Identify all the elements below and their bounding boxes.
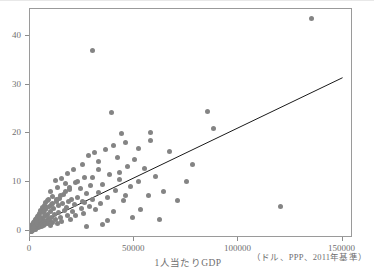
data-point	[81, 211, 86, 216]
x-axis-unit-note: （ドル、PPP、2011年基準）	[252, 252, 374, 262]
data-point	[105, 195, 110, 200]
data-point	[205, 109, 210, 114]
y-tick-label: 0	[0, 226, 21, 235]
data-point	[103, 147, 108, 152]
x-tick-mark	[133, 237, 134, 241]
data-point	[53, 178, 58, 183]
data-point	[278, 204, 283, 209]
x-tick-mark	[342, 237, 343, 241]
data-point	[107, 172, 112, 177]
data-point	[59, 176, 64, 181]
data-point	[86, 153, 91, 158]
y-tick-label: 30	[0, 80, 21, 89]
data-point	[87, 204, 92, 209]
x-tick-mark	[237, 237, 238, 241]
data-point	[78, 186, 83, 191]
data-point	[80, 162, 85, 167]
data-point	[132, 157, 137, 162]
y-tick-label: 40	[0, 31, 21, 40]
data-point	[130, 215, 135, 220]
data-point	[63, 189, 68, 194]
data-point	[111, 209, 116, 214]
data-point	[84, 224, 89, 229]
y-tick-label: 10	[0, 177, 21, 186]
plot-area	[29, 8, 352, 237]
data-point	[128, 184, 133, 189]
data-point	[84, 191, 89, 196]
x-tick-mark	[29, 237, 30, 241]
data-point	[90, 175, 95, 180]
data-point	[44, 205, 49, 210]
x-tick-label: 0	[0, 244, 59, 253]
data-point	[117, 170, 122, 175]
data-point	[115, 155, 120, 160]
data-point	[34, 219, 39, 224]
data-point	[55, 185, 60, 190]
regression-line	[30, 9, 352, 237]
data-point	[79, 206, 84, 211]
data-point	[119, 131, 124, 136]
x-axis-title: 1人当たりGDP	[128, 258, 248, 269]
data-point	[80, 199, 85, 204]
data-point	[123, 193, 128, 198]
data-point	[153, 174, 158, 179]
y-tick-label: 20	[0, 128, 21, 137]
data-point	[90, 48, 95, 53]
data-point	[62, 208, 67, 213]
data-point	[56, 203, 61, 208]
data-point	[142, 166, 147, 171]
data-point	[65, 171, 70, 176]
data-point	[68, 217, 73, 222]
top-clipped-rule	[0, 0, 374, 1]
scatter-plot-figure: 010203040 050000100000150000 1人当たりGDP （ド…	[0, 0, 374, 275]
data-point	[82, 175, 87, 180]
data-point	[73, 213, 78, 218]
x-tick-label: 50000	[103, 244, 163, 253]
